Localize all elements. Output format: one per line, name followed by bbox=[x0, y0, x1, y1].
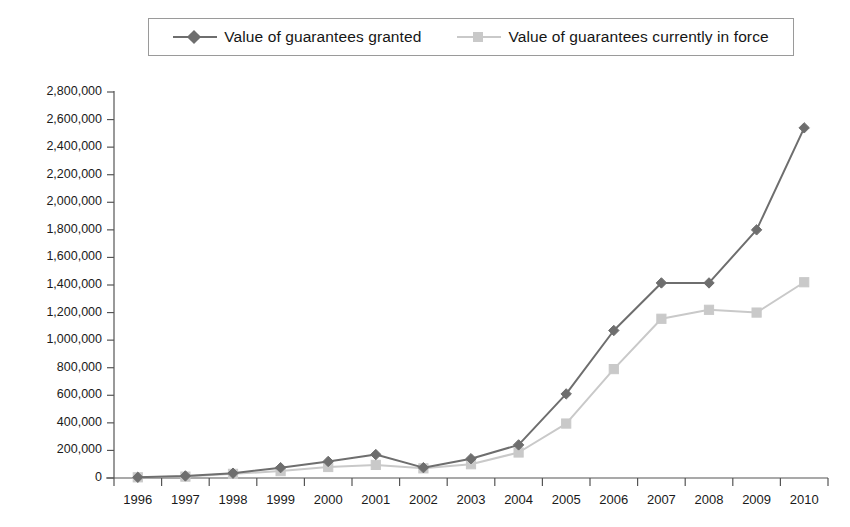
y-tick-label: 2,600,000 bbox=[16, 112, 102, 126]
y-tick-label: 1,200,000 bbox=[16, 305, 102, 319]
data-point-marker bbox=[371, 449, 381, 459]
data-point-marker bbox=[609, 364, 618, 373]
data-point-marker bbox=[752, 308, 761, 317]
data-point-marker bbox=[704, 305, 713, 314]
y-tick-label: 200,000 bbox=[16, 442, 102, 456]
y-tick-label: 1,000,000 bbox=[16, 332, 102, 346]
x-tick-label: 2010 bbox=[776, 492, 832, 507]
chart-container: Value of guarantees granted Value of gua… bbox=[0, 0, 850, 527]
y-tick-label: 800,000 bbox=[16, 360, 102, 374]
y-tick-label: 1,800,000 bbox=[16, 222, 102, 236]
data-point-marker bbox=[371, 460, 380, 469]
series-line-1 bbox=[138, 128, 804, 477]
data-point-marker bbox=[657, 314, 666, 323]
y-tick-label: 0 bbox=[16, 470, 102, 484]
data-point-marker bbox=[799, 123, 809, 133]
plot-area bbox=[0, 0, 850, 527]
data-point-marker bbox=[562, 419, 571, 428]
data-point-marker bbox=[800, 278, 809, 287]
y-tick-label: 2,400,000 bbox=[16, 139, 102, 153]
y-tick-label: 600,000 bbox=[16, 387, 102, 401]
y-tick-label: 2,200,000 bbox=[16, 167, 102, 181]
y-tick-label: 1,400,000 bbox=[16, 277, 102, 291]
y-tick-label: 1,600,000 bbox=[16, 249, 102, 263]
y-tick-label: 2,800,000 bbox=[16, 84, 102, 98]
y-tick-label: 400,000 bbox=[16, 415, 102, 429]
y-tick-label: 2,000,000 bbox=[16, 194, 102, 208]
